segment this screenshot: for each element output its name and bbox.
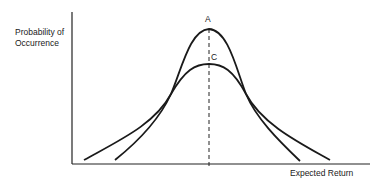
peak-a-label: A xyxy=(205,14,211,24)
curve-a xyxy=(115,29,300,161)
x-axis-label: Expected Return xyxy=(290,168,353,178)
distribution-diagram xyxy=(0,0,389,182)
curve-c xyxy=(84,64,330,160)
peak-c-label: C xyxy=(211,52,217,62)
